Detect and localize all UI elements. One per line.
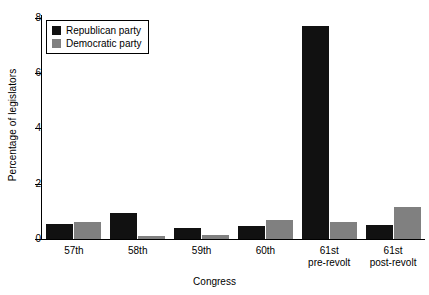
- x-tick-label: 61stpost-revolt: [361, 245, 425, 269]
- y-tick: 2: [0, 184, 41, 185]
- x-axis-label: Congress: [0, 276, 429, 288]
- legend-swatch-republican: [52, 26, 61, 35]
- x-tick-label-line: post-revolt: [361, 257, 425, 269]
- y-tick-label: 6: [15, 68, 41, 78]
- x-tick-label: 58th: [106, 245, 170, 257]
- bar-democratic: [138, 236, 165, 239]
- bar-democratic: [202, 235, 229, 239]
- y-tick: 8: [0, 18, 41, 19]
- bar-group: [170, 15, 234, 239]
- x-tick-label-line: pre-revolt: [297, 257, 361, 269]
- x-tick-label-line: 58th: [106, 245, 170, 257]
- bar-group: [297, 15, 361, 239]
- y-tick: 6: [0, 73, 41, 74]
- legend: Republican party Democratic party: [46, 20, 149, 54]
- x-tick-label: 59th: [170, 245, 234, 257]
- bar-chart: Percentage of legislators 02468 57th58th…: [0, 0, 429, 295]
- bar-republican: [238, 226, 265, 239]
- x-tick-label-line: 60th: [234, 245, 298, 257]
- x-tick-label-line: 57th: [42, 245, 106, 257]
- x-tick-label-line: 59th: [170, 245, 234, 257]
- y-tick: 0: [0, 239, 41, 240]
- legend-item-republican: Republican party: [52, 24, 142, 37]
- legend-swatch-democratic: [52, 39, 61, 48]
- x-tick-label: 61stpre-revolt: [297, 245, 361, 269]
- x-tick-label-line: 61st: [297, 245, 361, 257]
- bar-group: [234, 15, 298, 239]
- legend-label-republican: Republican party: [66, 24, 141, 37]
- bar-republican: [46, 224, 73, 239]
- bar-democratic: [74, 222, 101, 239]
- legend-label-democratic: Democratic party: [66, 37, 142, 50]
- bar-democratic: [330, 222, 357, 239]
- bar-republican: [302, 26, 329, 239]
- x-tick-label: 57th: [42, 245, 106, 257]
- x-tick-label: 60th: [234, 245, 298, 257]
- x-axis-line: [41, 239, 425, 240]
- y-tick-label: 8: [15, 13, 41, 23]
- bar-democratic: [266, 220, 293, 239]
- bar-republican: [110, 213, 137, 239]
- bar-republican: [366, 225, 393, 239]
- x-tick-label-line: 61st: [361, 245, 425, 257]
- y-tick-label: 4: [15, 123, 41, 133]
- bar-democratic: [394, 207, 421, 239]
- y-tick-label: 0: [15, 234, 41, 244]
- y-tick-label: 2: [15, 179, 41, 189]
- y-tick: 4: [0, 128, 41, 129]
- bar-group: [361, 15, 425, 239]
- bar-republican: [174, 228, 201, 239]
- legend-item-democratic: Democratic party: [52, 37, 142, 50]
